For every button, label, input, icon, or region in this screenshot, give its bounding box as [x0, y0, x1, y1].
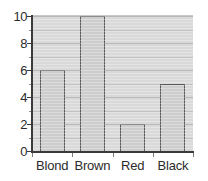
bar — [160, 84, 185, 152]
gridline-minor — [32, 57, 193, 58]
bar — [80, 16, 105, 151]
x-axis-tick-label: Red — [121, 158, 144, 173]
y-axis-tick-label: 6 — [0, 64, 27, 77]
bar-chart: 0246810 BlondBrownRedBlack — [0, 0, 208, 181]
y-axis-tick-label: 4 — [0, 91, 27, 104]
gridline-major — [32, 16, 193, 17]
x-axis-tick-mark — [153, 153, 154, 157]
y-axis-tick-label: 8 — [0, 37, 27, 50]
x-axis-tick-mark — [32, 153, 33, 157]
y-axis-tick-label: 10 — [0, 10, 27, 23]
x-axis-tick-label: Brown — [74, 158, 110, 173]
bar — [120, 124, 145, 151]
x-axis-tick-mark — [113, 153, 114, 157]
y-axis-tick-label: 2 — [0, 118, 27, 131]
y-axis-tick-label-group: 0246810 — [0, 0, 27, 181]
y-axis-line — [31, 15, 33, 152]
x-axis-tick-label: Black — [157, 158, 188, 173]
gridline-minor — [32, 30, 193, 31]
bar — [40, 70, 65, 151]
x-axis-tick-mark — [72, 153, 73, 157]
gridline-major — [32, 43, 193, 44]
plot-area — [32, 16, 193, 151]
x-axis-tick-mark — [193, 153, 194, 157]
y-axis-tick-label: 0 — [0, 145, 27, 158]
x-axis-tick-label: Blond — [36, 158, 68, 173]
